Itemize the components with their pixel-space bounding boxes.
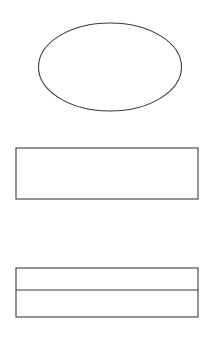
divided-rectangle-shape[interactable] <box>16 268 198 317</box>
rectangle-shape[interactable] <box>16 148 198 199</box>
ellipse-shape[interactable] <box>39 23 182 111</box>
diagram-canvas <box>0 0 213 341</box>
shapes-svg <box>0 0 213 341</box>
